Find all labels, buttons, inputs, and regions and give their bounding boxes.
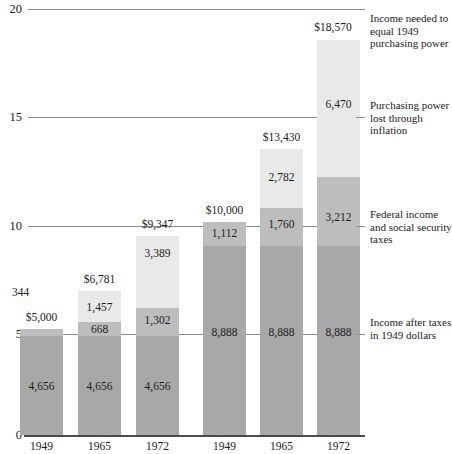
- bar-right-1949[interactable]: 1,112 8,888: [203, 222, 246, 435]
- tickmark-0: [26, 435, 33, 436]
- ytick-label-10: 10: [0, 220, 22, 233]
- bar-left-1965[interactable]: 1,457 668 4,656: [78, 291, 121, 435]
- bar-segment-taxes-label-left-1949: 344: [12, 287, 55, 299]
- legend-item-income: Income after taxes in 1949 dollars: [370, 316, 452, 341]
- xtick-label-right-1949: 1949: [203, 441, 246, 453]
- bar-segment-taxes-label: 668: [78, 324, 121, 336]
- xtick-label-left-1949: 1949: [20, 441, 63, 453]
- bar-total-right-1965: $13,430: [253, 132, 310, 144]
- legend-dash-1: [356, 9, 365, 10]
- xtick-label-left-1972: 1972: [136, 441, 179, 453]
- gridline-10: [28, 226, 365, 227]
- bar-total-left-1965: $6,781: [78, 274, 121, 286]
- ytick-label-0: 0: [0, 429, 22, 442]
- bar-left-1949[interactable]: 4,656: [20, 329, 63, 436]
- ytick-label-5: 5: [0, 328, 22, 341]
- bar-segment-inflation-label: 3,389: [136, 248, 179, 260]
- ytick-label-15: 15: [0, 111, 22, 124]
- axis-baseline: [24, 435, 365, 437]
- bar-right-1965[interactable]: 2,782 1,760 8,888: [260, 149, 303, 435]
- bar-total-right-1972: $18,570: [303, 22, 363, 34]
- bar-total-right-1949: $10,000: [196, 205, 253, 217]
- bar-segment-taxes-label: 1,760: [260, 219, 303, 231]
- bar-segment-income-label: 8,888: [260, 327, 303, 339]
- bar-right-1972[interactable]: 6,470 3,212 8,888: [317, 40, 360, 436]
- bar-segment-income: [260, 246, 303, 435]
- legend-item-inflation-top: Income needed to equal 1949 purchasing p…: [370, 12, 452, 50]
- bar-segment-income: [203, 246, 246, 435]
- bar-segment-taxes-label: 1,112: [203, 228, 246, 240]
- bar-segment-income-label: 4,656: [136, 381, 179, 393]
- xtick-label-right-1972: 1972: [317, 441, 360, 453]
- ytick-label-20: 20: [0, 3, 22, 16]
- xtick-label-right-1965: 1965: [260, 441, 303, 453]
- bar-segment-income-label: 4,656: [78, 381, 121, 393]
- gridline-20: [28, 9, 365, 10]
- bar-segment-income-label: 8,888: [203, 327, 246, 339]
- legend-item-inflation: Purchasing power lost through inflation: [370, 99, 452, 137]
- bar-segment-income: [317, 246, 360, 435]
- bar-segment-taxes-label: 1,302: [136, 315, 179, 327]
- bar-left-1972[interactable]: 3,389 1,302 4,656: [136, 236, 179, 435]
- xtick-label-left-1965: 1965: [78, 441, 121, 453]
- bar-segment-inflation-label: 6,470: [317, 99, 360, 111]
- bar-segment-income-label: 4,656: [20, 381, 63, 393]
- gridline-15: [28, 117, 365, 118]
- bar-segment-taxes-label: 3,212: [317, 212, 360, 224]
- bar-segment-income-label: 8,888: [317, 327, 360, 339]
- legend-dash-3: [356, 226, 365, 227]
- legend-dash-2: [356, 117, 365, 118]
- legend-item-taxes: Federal income and social security taxes: [370, 208, 452, 246]
- bar-total-left-1972: $9,347: [136, 219, 179, 231]
- legend-dash-4: [356, 334, 365, 335]
- bar-segment-inflation-label: 2,782: [260, 172, 303, 184]
- bar-segment-inflation-label: 1,457: [78, 302, 121, 314]
- bar-total-left-1949: $5,000: [20, 312, 63, 324]
- bar-segment-taxes: [20, 329, 63, 336]
